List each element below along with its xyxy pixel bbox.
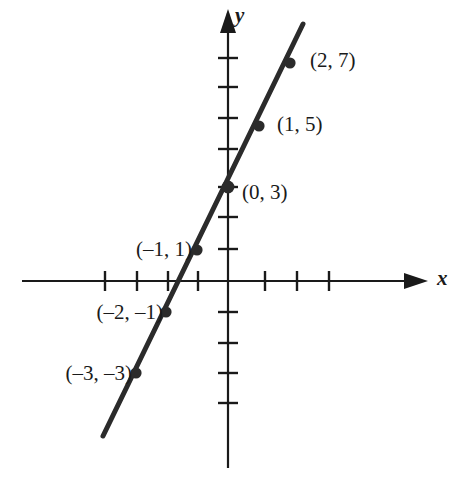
x-axis-label: x: [437, 268, 448, 289]
point-label-2-7: (2, 7): [310, 50, 356, 71]
data-point-2-7: [284, 57, 295, 68]
data-point-1-5: [253, 120, 264, 131]
graph-figure: x y (–3, –3) (–2, –1) (–1, 1) (0, 3) (1,…: [0, 0, 464, 483]
data-point-0-3: [222, 181, 235, 194]
point-label-neg3-neg3: (–3, –3): [66, 363, 133, 384]
y-axis-arrowhead: [220, 9, 236, 33]
coordinate-plane-svg: [0, 0, 464, 483]
data-point-neg3-neg3: [130, 367, 141, 378]
point-label-neg1-1: (–1, 1): [136, 239, 192, 260]
data-point-neg1-1: [191, 244, 202, 255]
y-axis-label: y: [235, 5, 244, 26]
x-axis-arrowhead: [404, 273, 428, 289]
point-label-0-3: (0, 3): [242, 182, 288, 203]
point-label-neg2-neg1: (–2, –1): [97, 302, 164, 323]
point-label-1-5: (1, 5): [277, 114, 323, 135]
